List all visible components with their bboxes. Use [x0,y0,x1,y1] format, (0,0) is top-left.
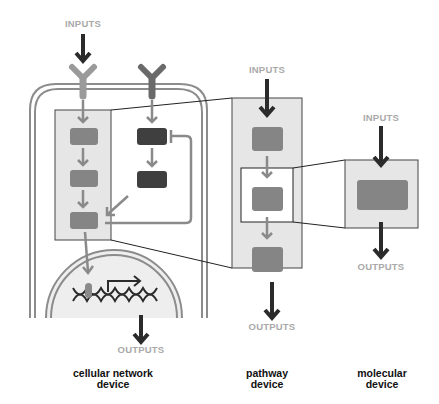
molecular-node [357,180,408,210]
hierarchy-diagram [0,0,439,404]
pathway-node-1 [252,127,283,151]
pathway-input-arrow-icon [260,79,274,115]
zoom-line-top [111,98,232,110]
molecular-device-line2: device [346,379,418,390]
cell-node-1 [70,128,98,145]
transcription-factor [85,283,92,298]
cell-node-right-2 [137,171,167,188]
cell-output-arrow-icon [134,315,148,342]
molecular-device-title: molecular device [346,368,418,390]
pathway-device-title: pathway device [232,368,302,390]
nucleus [46,250,182,318]
receptor-right-icon [141,67,163,96]
cellular-device-title: cellular network device [48,368,178,390]
pathway-node-3 [252,247,283,272]
molecular-input-arrow-icon [374,126,388,165]
cell-input-arrow-icon [76,34,90,61]
pathway-output-arrow-icon [265,282,279,318]
cell-inputs-label: INPUTS [58,18,108,29]
cell-node-2 [70,170,98,187]
molecular-outputs-label: OUTPUTS [351,261,411,272]
pathway-outputs-label: OUTPUTS [242,321,302,332]
molecular-inputs-label: INPUTS [356,112,406,123]
cell-outputs-label: OUTPUTS [111,344,171,355]
cellular-device-line2: device [48,379,178,390]
cell-node-3 [70,212,98,229]
cell-right-chain-arrows [107,100,157,215]
pathway-inputs-label: INPUTS [242,64,292,75]
cell-node-right-1 [137,128,167,145]
receptor-left-icon [72,67,94,96]
pathway-device-line2: device [232,379,302,390]
pathway-node-2 [252,187,283,211]
